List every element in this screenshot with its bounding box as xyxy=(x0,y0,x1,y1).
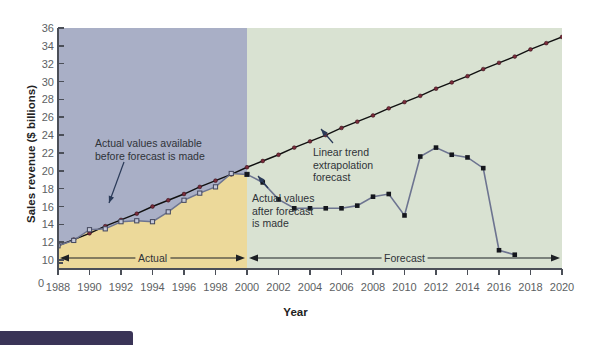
x-tick-label: 2010 xyxy=(392,281,416,293)
span-label-actual: Actual xyxy=(135,252,170,264)
x-tick xyxy=(498,269,500,275)
x-tick-label: 2018 xyxy=(518,281,542,293)
y-tick xyxy=(58,170,64,172)
x-tick-label: 2020 xyxy=(550,281,574,293)
x-tick xyxy=(467,269,469,275)
x-tick xyxy=(89,269,91,275)
x-tick xyxy=(561,269,563,275)
page-footer-bar xyxy=(0,331,133,345)
x-tick xyxy=(309,269,311,275)
x-tick xyxy=(278,269,280,275)
x-tick xyxy=(183,269,185,275)
y-tick xyxy=(58,27,64,29)
annotation-linear-trend: Linear trendextrapolationforecast xyxy=(313,146,373,184)
x-tick xyxy=(57,269,59,275)
y-tick xyxy=(58,99,64,101)
x-tick-label: 2006 xyxy=(329,281,353,293)
x-tick xyxy=(372,269,374,275)
y-tick xyxy=(58,259,64,261)
x-tick-label: 1988 xyxy=(46,281,70,293)
x-tick-label: 2000 xyxy=(235,281,259,293)
annotation-after-forecast: Actual valuesafter forecastis made xyxy=(252,192,314,230)
x-tick-label: 2004 xyxy=(298,281,322,293)
x-tick-label: 1998 xyxy=(203,281,227,293)
x-tick xyxy=(120,269,122,275)
y-tick xyxy=(58,45,64,47)
y-tick xyxy=(58,152,64,154)
y-tick xyxy=(58,81,64,83)
y-tick xyxy=(58,206,64,208)
x-tick-label: 2012 xyxy=(424,281,448,293)
x-tick xyxy=(435,269,437,275)
y-tick xyxy=(58,241,64,243)
annotation-before-forecast: Actual values availablebefore forecast i… xyxy=(95,137,205,162)
x-tick xyxy=(152,269,154,275)
x-tick-label: 2016 xyxy=(487,281,511,293)
x-tick xyxy=(246,269,248,275)
y-tick xyxy=(58,116,64,118)
x-tick xyxy=(215,269,217,275)
y-tick xyxy=(58,134,64,136)
x-tick xyxy=(404,269,406,275)
x-tick-label: 1994 xyxy=(140,281,164,293)
x-tick xyxy=(341,269,343,275)
x-tick xyxy=(530,269,532,275)
chart-figure: 0 1012141618202224262830323436 198819901… xyxy=(0,0,591,345)
x-tick-label: 1996 xyxy=(172,281,196,293)
x-axis-title: Year xyxy=(0,306,591,318)
x-tick-label: 1992 xyxy=(109,281,133,293)
x-tick-label: 1990 xyxy=(77,281,101,293)
x-tick-label: 2002 xyxy=(266,281,290,293)
span-label-forecast: Forecast xyxy=(381,252,428,264)
x-tick-label: 2014 xyxy=(455,281,479,293)
y-tick xyxy=(58,224,64,226)
y-tick xyxy=(58,188,64,190)
x-tick-label: 2008 xyxy=(361,281,385,293)
y-tick xyxy=(58,63,64,65)
x-axis-ticks: 1988199019921994199619982000200220042006… xyxy=(0,0,591,345)
y-axis-title: Sales revenue ($ billions) xyxy=(25,69,37,239)
